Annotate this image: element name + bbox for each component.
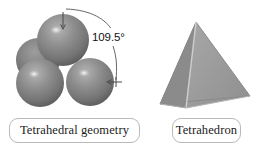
chemistry-figure: 109.5° [0,0,264,155]
sphere-top-highlight [50,26,62,34]
caption-tetrahedral-geometry: Tetrahedral geometry [9,118,140,143]
sphere-front-right-highlight [78,69,89,77]
sphere-model-illustration [0,0,148,118]
caption-tetrahedron-text: Tetrahedron [176,123,237,138]
caption-tetrahedral-geometry-text: Tetrahedral geometry [20,123,129,138]
tetrahedron-illustration [148,0,264,118]
angle-arc-lower [113,46,117,80]
sphere-front-left [16,59,64,107]
sphere-front-right [66,58,114,106]
caption-tetrahedron: Tetrahedron [172,118,241,143]
tetrahedron-face-right [186,22,250,108]
sphere-front-left-highlight [28,70,39,78]
bond-angle-label: 109.5° [89,28,128,45]
